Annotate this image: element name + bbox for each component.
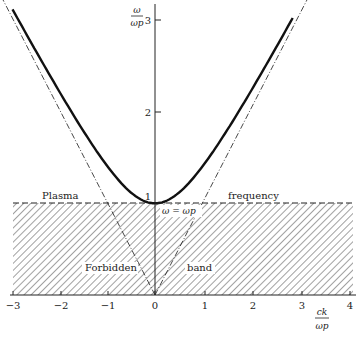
omega-equals-omega-p-label: ω = ωp	[162, 206, 196, 216]
y-axis-label: ω ωp	[130, 5, 143, 28]
plasma-label: Plasma	[42, 190, 79, 201]
frequency-label: frequency	[228, 190, 279, 201]
x-axis-label-numerator: ck	[317, 307, 328, 317]
x-tick-label: −3	[6, 300, 21, 311]
x-tick-label: 0	[152, 300, 158, 311]
forbidden-label: Forbidden	[85, 262, 138, 273]
x-tick-label: 1	[202, 300, 208, 311]
y-tick-label: 2	[145, 107, 151, 118]
x-tick-label: −1	[101, 300, 116, 311]
y-tick-label: 1	[145, 191, 151, 202]
x-tick-label: 4	[347, 300, 353, 311]
y-axis-label-numerator: ω	[133, 5, 141, 15]
y-ticks	[155, 20, 161, 203]
dispersion-chart: −3 −2 −1 0 1 2 3 4 1 2 3 ω ωp ck ωp Plas…	[0, 0, 364, 338]
x-axis-label: ck ωp	[315, 307, 329, 331]
y-axis-label-denominator: ωp	[130, 18, 143, 28]
x-tick-label: −2	[54, 300, 69, 311]
x-axis-label-denominator: ωp	[315, 321, 328, 331]
dispersion-curve	[13, 9, 293, 203]
x-tick-label: 3	[299, 300, 305, 311]
x-tick-label: 2	[250, 300, 256, 311]
x-tick-labels: −3 −2 −1 0 1 2 3 4	[6, 300, 354, 311]
band-label: band	[187, 262, 213, 273]
y-tick-label: 3	[145, 15, 151, 26]
